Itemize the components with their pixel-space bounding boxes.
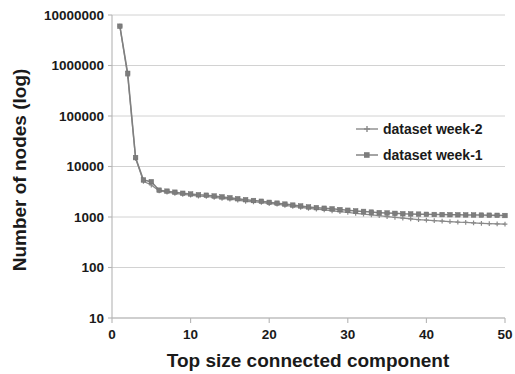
data-point-marker — [267, 200, 272, 205]
data-point-marker — [204, 193, 209, 198]
line-chart: 10000000100000010000010000100010010 0102… — [0, 0, 515, 374]
data-point-marker — [448, 212, 453, 217]
x-tick-label: 10 — [183, 327, 198, 342]
y-tick-label: 10000 — [66, 159, 104, 174]
data-point-marker — [149, 179, 154, 184]
data-point-marker — [118, 24, 123, 29]
data-point-marker — [212, 194, 217, 199]
data-point-marker — [503, 213, 508, 218]
data-point-marker — [408, 212, 413, 217]
data-point-marker — [393, 211, 398, 216]
data-point-marker — [440, 212, 445, 217]
data-point-marker — [298, 204, 303, 209]
y-tick-label: 100 — [81, 260, 104, 275]
y-tick-label: 1000000 — [51, 58, 104, 73]
data-point-marker — [220, 195, 225, 200]
data-point-marker — [306, 205, 311, 210]
chart-figure: 10000000100000010000010000100010010 0102… — [0, 0, 515, 374]
data-point-marker — [275, 201, 280, 206]
data-point-marker — [487, 213, 492, 218]
x-tick-label: 20 — [262, 327, 277, 342]
data-point-marker — [385, 211, 390, 216]
data-point-marker — [251, 198, 256, 203]
data-point-marker — [401, 211, 406, 216]
data-point-marker — [463, 213, 468, 218]
data-point-marker — [369, 210, 374, 215]
data-point-marker — [346, 208, 351, 213]
data-point-marker — [157, 188, 162, 193]
data-point-marker — [290, 203, 295, 208]
data-point-marker — [235, 196, 240, 201]
data-point-marker — [471, 213, 476, 218]
y-tick-label: 10 — [89, 311, 104, 326]
data-point-marker — [188, 192, 193, 197]
data-point-marker — [141, 178, 146, 183]
data-point-marker — [479, 213, 484, 218]
legend-marker-icon — [364, 152, 370, 158]
x-tick-label: 40 — [419, 327, 434, 342]
data-point-marker — [495, 213, 500, 218]
y-tick-label: 100000 — [59, 109, 104, 124]
data-point-marker — [416, 212, 421, 217]
data-point-marker — [228, 196, 233, 201]
data-point-marker — [338, 207, 343, 212]
x-tick-label: 0 — [108, 327, 116, 342]
data-point-marker — [125, 71, 130, 76]
y-axis-title: Number of nodes (log) — [9, 69, 30, 272]
x-axis-title: Top size connected component — [167, 350, 450, 371]
data-point-marker — [259, 199, 264, 204]
legend-label: dataset week-2 — [383, 121, 483, 137]
data-point-marker — [243, 197, 248, 202]
data-point-marker — [322, 206, 327, 211]
data-point-marker — [314, 205, 319, 210]
y-tick-label: 10000000 — [44, 8, 104, 23]
y-tick-label: 1000 — [74, 210, 104, 225]
data-point-marker — [165, 189, 170, 194]
data-point-marker — [377, 210, 382, 215]
data-point-marker — [424, 212, 429, 217]
data-point-marker — [456, 213, 461, 218]
data-point-marker — [361, 209, 366, 214]
x-tick-label: 30 — [340, 327, 355, 342]
data-point-marker — [283, 202, 288, 207]
data-point-marker — [173, 190, 178, 195]
data-point-marker — [432, 212, 437, 217]
legend-label: dataset week-1 — [383, 147, 483, 163]
data-point-marker — [180, 191, 185, 196]
x-tick-label: 50 — [497, 327, 512, 342]
data-point-marker — [133, 155, 138, 160]
data-point-marker — [330, 207, 335, 212]
data-point-marker — [353, 209, 358, 214]
data-point-marker — [196, 193, 201, 198]
